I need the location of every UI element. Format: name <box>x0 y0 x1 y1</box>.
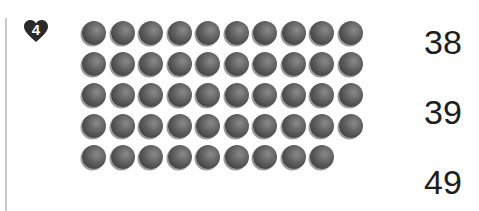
dot <box>196 114 220 138</box>
dot <box>225 145 249 169</box>
dot <box>111 114 135 138</box>
dot-array <box>82 21 363 169</box>
dot <box>225 114 249 138</box>
dot <box>253 114 277 138</box>
left-margin-rule <box>5 18 7 211</box>
dot <box>196 21 220 45</box>
dot-row <box>82 21 363 45</box>
dot <box>282 83 306 107</box>
dot-row <box>82 52 363 76</box>
dot <box>282 52 306 76</box>
dot <box>310 21 334 45</box>
dot <box>253 83 277 107</box>
dot <box>282 114 306 138</box>
answer-choice-2[interactable]: 39 <box>413 95 473 129</box>
problem-number-badge: 4 <box>24 20 48 44</box>
dot <box>82 52 106 76</box>
dot <box>168 52 192 76</box>
dot <box>282 21 306 45</box>
dot <box>111 21 135 45</box>
dot <box>139 52 163 76</box>
dot <box>196 145 220 169</box>
dot-row <box>82 114 363 138</box>
dot <box>225 52 249 76</box>
problem-number: 4 <box>24 21 48 39</box>
dot <box>225 21 249 45</box>
dot <box>139 21 163 45</box>
dot <box>82 21 106 45</box>
dot <box>139 145 163 169</box>
dot <box>310 52 334 76</box>
dot <box>253 145 277 169</box>
dot <box>282 145 306 169</box>
dot <box>196 83 220 107</box>
dot <box>168 114 192 138</box>
dot <box>339 83 363 107</box>
dot <box>253 21 277 45</box>
dot <box>253 52 277 76</box>
dot <box>82 114 106 138</box>
dot <box>339 21 363 45</box>
answer-choice-3[interactable]: 49 <box>413 165 473 199</box>
dot <box>139 83 163 107</box>
dot <box>82 145 106 169</box>
dot <box>82 83 106 107</box>
dot <box>196 52 220 76</box>
dot-row <box>82 145 363 169</box>
dot <box>339 114 363 138</box>
dot <box>310 145 334 169</box>
dot-row <box>82 83 363 107</box>
answer-choice-1[interactable]: 38 <box>413 25 473 59</box>
dot <box>225 83 249 107</box>
dot <box>168 21 192 45</box>
dot <box>168 83 192 107</box>
dot <box>139 114 163 138</box>
dot <box>310 114 334 138</box>
dot <box>339 52 363 76</box>
dot <box>111 145 135 169</box>
dot <box>111 83 135 107</box>
dot <box>111 52 135 76</box>
dot <box>168 145 192 169</box>
dot <box>310 83 334 107</box>
